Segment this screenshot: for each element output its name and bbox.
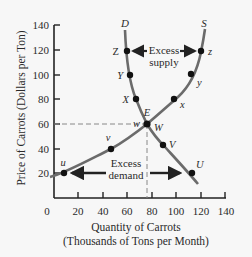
y-tick-100: 100 (33, 69, 50, 81)
excess-demand-label-line2: demand (109, 169, 144, 181)
x-axis-title: Quantity of Carrots (91, 221, 181, 234)
y-tick-140: 140 (33, 19, 50, 31)
y-tick-20: 20 (38, 167, 50, 179)
point-E (143, 120, 150, 127)
x-tick-40: 40 (98, 205, 110, 217)
excess-demand-label-line1: Excess (111, 157, 142, 169)
y-tick-labels: 140 120 100 80 60 40 20 (33, 19, 50, 179)
y-ticks (54, 25, 60, 173)
label-v: v (106, 132, 111, 143)
point-v (108, 146, 114, 152)
x-tick-60: 60 (122, 205, 134, 217)
point-z (198, 48, 204, 54)
excess-supply-label-line1: Excess (149, 44, 180, 56)
y-tick-80: 80 (38, 93, 50, 105)
supply-demand-chart: 140 120 100 80 60 40 20 0 20 40 60 80 10… (0, 0, 252, 257)
point-Z (124, 48, 130, 54)
y-axis-title: Price of Carrots (Dollars per Ton) (15, 30, 28, 185)
x-tick-120: 120 (193, 205, 210, 217)
point-Y (127, 72, 133, 78)
x-axis-subtitle: (Thousands of Tons per Month) (63, 235, 209, 248)
label-x: x (179, 99, 185, 110)
supply-label: S (201, 17, 207, 29)
x-tick-labels: 0 20 40 60 80 100 120 140 (44, 205, 235, 217)
x-tick-80: 80 (147, 205, 159, 217)
y-tick-40: 40 (38, 143, 50, 155)
label-Y: Y (117, 70, 124, 81)
point-V (160, 142, 166, 148)
label-y: y (196, 77, 202, 88)
point-X (133, 96, 139, 102)
label-X: X (122, 94, 130, 105)
point-u (61, 170, 67, 176)
y-tick-120: 120 (33, 44, 50, 56)
label-w: w (133, 118, 140, 129)
point-x (171, 96, 177, 102)
point-U (189, 170, 195, 176)
point-labels: Z Y X E W V U z y x w v u (60, 46, 212, 170)
label-u: u (60, 157, 65, 168)
x-tick-100: 100 (168, 205, 185, 217)
x-tick-0: 0 (44, 205, 50, 217)
demand-label: D (120, 17, 129, 29)
label-E: E (143, 107, 151, 118)
label-V: V (169, 139, 177, 150)
x-tick-20: 20 (73, 205, 85, 217)
label-Z: Z (113, 46, 119, 57)
y-tick-60: 60 (38, 118, 50, 130)
label-U: U (196, 159, 205, 170)
label-z: z (207, 46, 212, 57)
label-W: W (154, 122, 164, 133)
excess-supply-label-line2: supply (149, 56, 179, 68)
x-tick-140: 140 (218, 205, 235, 217)
x-ticks (78, 192, 225, 198)
point-y (188, 71, 194, 77)
